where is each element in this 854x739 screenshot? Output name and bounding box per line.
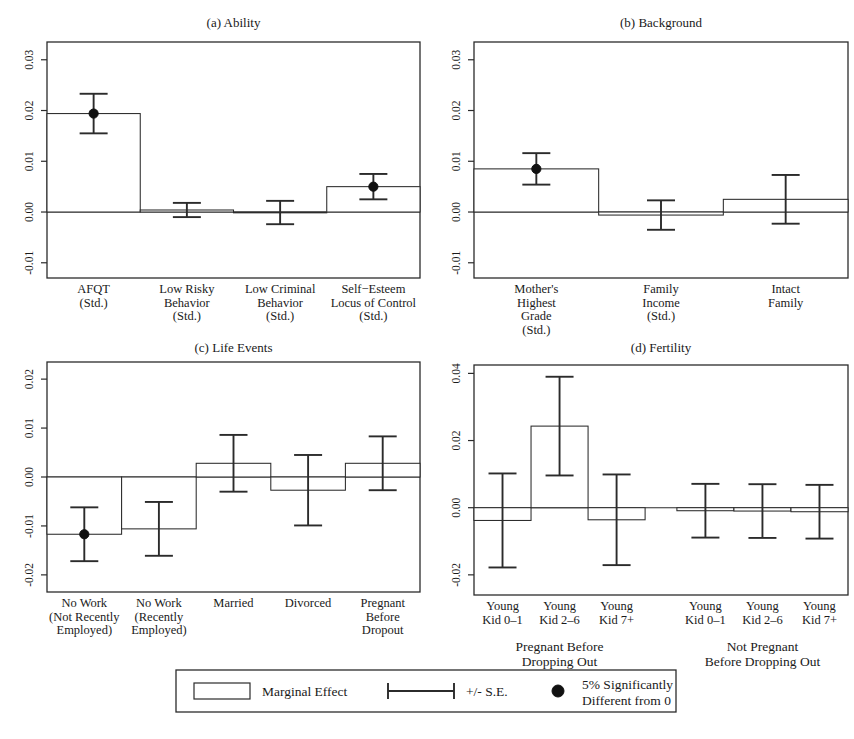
x-axis-category-label: No Work [61, 596, 107, 610]
x-axis-category-label: Young [689, 599, 723, 613]
x-axis-category-label: Family [643, 282, 679, 296]
x-axis-category-label: Before [366, 610, 400, 624]
chart-panel-a-ability: (a) Ability0.030.020.010.00-0.01AFQT(Std… [0, 0, 427, 340]
x-axis-category-label: Behavior [164, 296, 211, 310]
x-axis-category-label: Family [768, 296, 804, 310]
x-axis-category-label: (Not Recently [49, 610, 120, 624]
x-axis-category-label: (Std.) [647, 309, 675, 323]
y-axis-tick-label: -0.01 [23, 514, 35, 538]
figure-legend: Marginal Effect+/- S.E.5% SignificantlyD… [0, 658, 854, 720]
filled-circle-icon [552, 685, 564, 697]
y-axis-tick-label: 0.04 [450, 363, 462, 383]
y-axis-tick-label: 0.00 [23, 467, 35, 487]
y-axis-tick-label: 0.02 [450, 430, 462, 450]
x-axis-category-label: (Std.) [522, 323, 550, 337]
x-axis-category-label: (Std.) [173, 309, 201, 323]
y-axis-tick-label: 0.02 [450, 100, 462, 120]
x-axis-category-label: Employed) [131, 623, 187, 637]
significance-marker [80, 530, 89, 539]
x-axis-category-label: Divorced [285, 596, 332, 610]
y-axis-tick-label: 0.01 [450, 151, 462, 171]
figure-root: (a) Ability0.030.020.010.00-0.01AFQT(Std… [0, 0, 854, 739]
x-axis-category-label: Behavior [257, 296, 304, 310]
x-axis-category-label: Kid 7+ [802, 613, 837, 627]
x-axis-category-label: (Std.) [359, 309, 387, 323]
x-axis-category-label: AFQT [77, 282, 110, 296]
x-axis-category-label: Kid 0–1 [685, 613, 726, 627]
x-axis-category-label: Grade [521, 309, 552, 323]
panel-title: (c) Life Events [195, 340, 273, 355]
y-axis-tick-label: 0.02 [23, 100, 35, 120]
x-axis-category-label: Dropout [362, 623, 404, 637]
page-text-artifact [0, 726, 854, 739]
x-axis-category-label: Low Criminal [245, 282, 316, 296]
y-axis-tick-label: 0.00 [450, 497, 462, 517]
x-axis-category-label: Self−Esteem [341, 282, 405, 296]
x-axis-category-label: Employed) [57, 623, 113, 637]
x-axis-category-label: No Work [136, 596, 182, 610]
legend-label-significance-line2: Different from 0 [582, 693, 671, 708]
x-axis-category-label: Kid 2–6 [539, 613, 580, 627]
significance-marker [369, 182, 378, 191]
x-axis-category-label: Low Risky [159, 282, 215, 296]
chart-panel-b-background: (b) Background0.030.020.010.00-0.01Mothe… [427, 0, 854, 340]
x-axis-category-label: Pregnant [360, 596, 405, 610]
y-axis-tick-label: -0.02 [23, 563, 35, 587]
x-axis-category-label: Income [642, 296, 680, 310]
x-axis-category-label: Young [803, 599, 837, 613]
x-axis-category-label: Kid 2–6 [742, 613, 783, 627]
y-axis-tick-label: -0.01 [450, 251, 462, 275]
panel-grid: (a) Ability0.030.020.010.00-0.01AFQT(Std… [0, 0, 854, 680]
x-axis-category-label: Young [746, 599, 780, 613]
x-axis-category-label: Highest [517, 296, 556, 310]
x-axis-category-label: Mother's [514, 282, 558, 296]
significance-marker [89, 109, 98, 118]
legend-label-standard-error: +/- S.E. [466, 684, 508, 699]
panel-title: (d) Fertility [631, 340, 692, 355]
legend-label-marginal-effect: Marginal Effect [262, 684, 348, 699]
x-axis-category-label: Intact [771, 282, 800, 296]
x-axis-category-label: Young [486, 599, 520, 613]
open-rectangle-icon [194, 683, 250, 699]
x-axis-category-label: Locus of Control [331, 296, 417, 310]
x-axis-category-label: (Recently [135, 610, 184, 624]
y-axis-tick-label: -0.02 [450, 563, 462, 587]
x-axis-category-label: Kid 0–1 [482, 613, 523, 627]
y-axis-tick-label: 0.02 [23, 369, 35, 389]
plot-frame [474, 365, 848, 595]
x-axis-group-label: Pregnant Before [516, 639, 604, 654]
chart-panel-d-fertility: (d) Fertility0.040.020.00-0.02YoungKid 0… [427, 340, 854, 680]
y-axis-tick-label: 0.01 [23, 418, 35, 438]
x-axis-category-label: Kid 7+ [599, 613, 634, 627]
x-axis-category-label: Young [600, 599, 634, 613]
y-axis-tick-label: -0.01 [23, 251, 35, 275]
x-axis-category-label: (Std.) [266, 309, 294, 323]
y-axis-tick-label: 0.03 [23, 49, 35, 69]
y-axis-tick-label: 0.03 [450, 49, 462, 69]
x-axis-category-label: Young [543, 599, 577, 613]
chart-panel-c-life-events: (c) Life Events0.020.010.00-0.01-0.02No … [0, 340, 427, 680]
x-axis-category-label: (Std.) [80, 296, 108, 310]
x-axis-group-label: Not Pregnant [727, 639, 799, 654]
y-axis-tick-label: 0.00 [450, 202, 462, 222]
panel-title: (a) Ability [207, 15, 261, 30]
significance-marker [532, 164, 541, 173]
legend-label-significance-line1: 5% Significantly [582, 677, 673, 692]
panel-title: (b) Background [620, 15, 702, 30]
x-axis-category-label: Married [213, 596, 254, 610]
y-axis-tick-label: 0.01 [23, 151, 35, 171]
plot-frame [474, 42, 848, 278]
y-axis-tick-label: 0.00 [23, 202, 35, 222]
